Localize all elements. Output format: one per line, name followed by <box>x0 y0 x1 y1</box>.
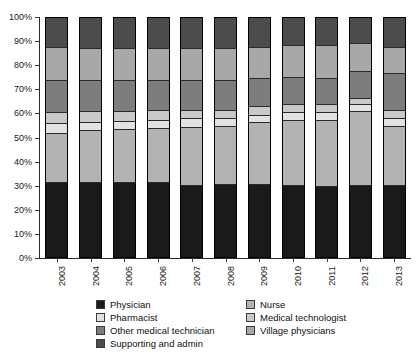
bar-segment[interactable] <box>316 45 337 77</box>
bar-segment[interactable] <box>114 129 135 182</box>
bar-segment[interactable] <box>283 185 304 257</box>
bar-segment[interactable] <box>283 77 304 104</box>
bar-segment[interactable] <box>114 18 135 48</box>
bar-segment[interactable] <box>80 18 101 48</box>
x-tick-label: 2004 <box>91 266 101 286</box>
bar-segment[interactable] <box>215 184 236 257</box>
bar-segment[interactable] <box>384 110 405 118</box>
y-tick-label: 90% <box>14 36 32 46</box>
legend-item[interactable]: Supporting and admin <box>96 337 246 349</box>
bar-segment[interactable] <box>181 118 202 126</box>
stacked-bar[interactable] <box>180 17 203 258</box>
bar-segment[interactable] <box>215 118 236 125</box>
bar-segment[interactable] <box>80 111 101 122</box>
bar-segment[interactable] <box>316 120 337 187</box>
bar-segment[interactable] <box>46 18 67 47</box>
bar-segment[interactable] <box>181 18 202 48</box>
bar-segment[interactable] <box>80 182 101 257</box>
bar-segment[interactable] <box>249 122 270 184</box>
bar-segment[interactable] <box>316 104 337 112</box>
bar-segment[interactable] <box>80 80 101 111</box>
bar-segment[interactable] <box>215 126 236 185</box>
bar-segment[interactable] <box>80 122 101 130</box>
stacked-bar[interactable] <box>248 17 271 258</box>
bar-segment[interactable] <box>114 111 135 121</box>
legend-item[interactable]: Other medical technician <box>96 324 246 336</box>
stacked-bar[interactable] <box>45 17 68 258</box>
bar-segment[interactable] <box>249 18 270 47</box>
stacked-bar[interactable] <box>282 17 305 258</box>
bar-segment[interactable] <box>316 78 337 104</box>
bar-segment[interactable] <box>249 47 270 78</box>
bar-segment[interactable] <box>283 120 304 186</box>
bar-segment[interactable] <box>316 18 337 45</box>
stacked-bar[interactable] <box>349 17 372 258</box>
bar-segment[interactable] <box>283 45 304 76</box>
legend-item[interactable]: Physician <box>96 298 246 310</box>
bar-segment[interactable] <box>350 185 371 257</box>
legend-item[interactable]: Village physicians <box>246 324 396 336</box>
bar-segment[interactable] <box>148 80 169 110</box>
bar-segment[interactable] <box>46 133 67 182</box>
bar-segment[interactable] <box>384 47 405 73</box>
bar-segment[interactable] <box>283 18 304 45</box>
bar-segment[interactable] <box>148 48 169 80</box>
stacked-bar[interactable] <box>383 17 406 258</box>
legend-item[interactable]: Pharmacist <box>96 311 246 323</box>
bar-segment[interactable] <box>384 73 405 110</box>
bar-segment[interactable] <box>384 118 405 125</box>
bar-slot <box>107 17 141 258</box>
bar-segment[interactable] <box>181 185 202 257</box>
bar-segment[interactable] <box>181 110 202 118</box>
bar-segment[interactable] <box>46 47 67 80</box>
bar-segment[interactable] <box>114 48 135 80</box>
stacked-bar[interactable] <box>147 17 170 258</box>
bar-segment[interactable] <box>80 48 101 80</box>
bar-segment[interactable] <box>350 71 371 98</box>
bar-segment[interactable] <box>46 123 67 133</box>
bar-segment[interactable] <box>114 80 135 111</box>
legend-item[interactable]: Medical technologist <box>246 311 396 323</box>
bar-segment[interactable] <box>80 130 101 181</box>
bar-segment[interactable] <box>148 120 169 128</box>
bar-segment[interactable] <box>249 184 270 257</box>
bar-segment[interactable] <box>384 18 405 47</box>
bar-segment[interactable] <box>215 48 236 80</box>
bar-segment[interactable] <box>46 112 67 123</box>
bar-segment[interactable] <box>148 182 169 257</box>
bar-segment[interactable] <box>384 185 405 257</box>
bar-segment[interactable] <box>114 121 135 129</box>
bar-segment[interactable] <box>215 18 236 48</box>
stacked-bar[interactable] <box>214 17 237 258</box>
legend-item[interactable]: Nurse <box>246 298 396 310</box>
bar-segment[interactable] <box>215 110 236 118</box>
bar-segment[interactable] <box>215 80 236 110</box>
bar-segment[interactable] <box>283 112 304 119</box>
x-tick-mark <box>192 258 193 262</box>
bar-segment[interactable] <box>148 110 169 120</box>
bar-segment[interactable] <box>249 115 270 122</box>
bar-segment[interactable] <box>148 128 169 182</box>
x-tick-label: 2009 <box>259 266 269 286</box>
stacked-bar[interactable] <box>315 17 338 258</box>
bar-segment[interactable] <box>46 182 67 257</box>
bar-segment[interactable] <box>384 126 405 186</box>
bar-segment[interactable] <box>350 111 371 185</box>
bar-segment[interactable] <box>46 80 67 112</box>
bar-segment[interactable] <box>148 18 169 48</box>
bar-segment[interactable] <box>316 186 337 257</box>
bar-segment[interactable] <box>350 43 371 70</box>
bar-segment[interactable] <box>249 106 270 114</box>
bar-segment[interactable] <box>283 104 304 112</box>
bar-segment[interactable] <box>181 48 202 80</box>
stacked-bar[interactable] <box>79 17 102 258</box>
stacked-bar[interactable] <box>113 17 136 258</box>
legend-column: NurseMedical technologistVillage physici… <box>246 298 396 350</box>
bar-segment[interactable] <box>249 78 270 107</box>
bar-segment[interactable] <box>316 112 337 119</box>
bar-segment[interactable] <box>114 182 135 257</box>
bar-segment[interactable] <box>350 18 371 43</box>
bar-segment[interactable] <box>181 127 202 186</box>
bar-segment[interactable] <box>350 104 371 111</box>
bar-segment[interactable] <box>181 80 202 110</box>
